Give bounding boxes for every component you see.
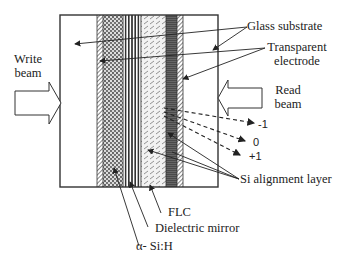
transparent-electrode-label: Transparent electrode — [262, 40, 332, 68]
si-alignment-layer — [166, 15, 177, 187]
a-si-h-label: α- Si:H — [136, 239, 173, 253]
transparent-electrode-left — [97, 15, 103, 187]
si-alignment-layer-label: Si alignment layer — [240, 172, 332, 186]
order-minus1-label: -1 — [258, 117, 268, 131]
order-plus1-label: +1 — [249, 149, 262, 163]
dielectric-mirror-layer — [123, 15, 141, 187]
dielectric-mirror-label: Dielectric mirror — [155, 221, 239, 235]
glass-substrate-label: Glass substrate — [247, 19, 322, 33]
read-beam-arrow — [218, 80, 262, 116]
write-beam-label: Write beam — [8, 52, 48, 80]
dielectric-mirror-leader — [130, 182, 148, 227]
read-beam-label: Read beam — [266, 83, 310, 111]
flc-label: FLC — [168, 205, 191, 219]
order-0-label: 0 — [253, 135, 259, 149]
flc-layer — [141, 15, 166, 187]
write-beam-arrow — [15, 82, 61, 124]
glass-substrate-left — [60, 15, 97, 187]
flc-leader — [150, 185, 161, 213]
glass-substrate-right — [183, 15, 218, 187]
